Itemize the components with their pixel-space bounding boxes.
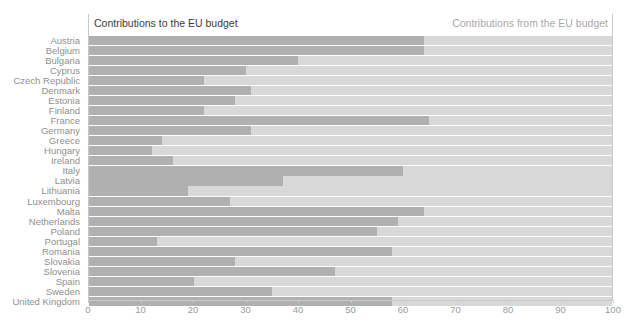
category-label: Czech Republic xyxy=(0,76,84,85)
bar-row[interactable] xyxy=(88,106,613,115)
bar-segment-to-budget xyxy=(89,56,298,65)
bar-row[interactable] xyxy=(88,116,613,125)
bar-row[interactable] xyxy=(88,86,613,95)
bar-row[interactable] xyxy=(88,176,613,185)
bar-segment-to-budget xyxy=(89,86,251,95)
bar-row[interactable] xyxy=(88,166,613,175)
x-tick-mark xyxy=(88,300,89,303)
category-label: Lithuania xyxy=(0,186,84,195)
x-axis: 0102030405060708090100 xyxy=(88,300,613,324)
category-label: Slovenia xyxy=(0,267,84,276)
category-label: Ireland xyxy=(0,156,84,165)
x-tick-label: 90 xyxy=(555,304,566,315)
x-tick-label: 100 xyxy=(605,304,621,315)
bar-row[interactable] xyxy=(88,36,613,45)
x-tick-mark xyxy=(298,300,299,303)
bar-row[interactable] xyxy=(88,247,613,256)
category-label: Denmark xyxy=(0,86,84,95)
bar-segment-to-budget xyxy=(89,237,157,246)
bar-row[interactable] xyxy=(88,76,613,85)
category-label: Bulgaria xyxy=(0,56,84,65)
x-tick-mark xyxy=(141,300,142,303)
category-label: Malta xyxy=(0,207,84,216)
bar-segment-from-budget xyxy=(89,237,612,246)
x-tick-label: 60 xyxy=(398,304,409,315)
category-label: Belgium xyxy=(0,46,84,55)
category-label: Latvia xyxy=(0,176,84,185)
bar-row[interactable] xyxy=(88,56,613,65)
bar-row[interactable] xyxy=(88,227,613,236)
bar-row[interactable] xyxy=(88,136,613,145)
chart-legend-band: Contributions to the EU budget Contribut… xyxy=(88,14,613,36)
x-tick-mark xyxy=(456,300,457,303)
bar-segment-to-budget xyxy=(89,156,173,165)
bar-segment-to-budget xyxy=(89,126,251,135)
x-tick-label: 70 xyxy=(450,304,461,315)
category-label: Italy xyxy=(0,166,84,175)
bar-segment-to-budget xyxy=(89,277,194,286)
category-label: Netherlands xyxy=(0,217,84,226)
bar-row[interactable] xyxy=(88,197,613,206)
category-label: Sweden xyxy=(0,287,84,296)
bar-segment-to-budget xyxy=(89,207,424,216)
bar-segment-to-budget xyxy=(89,166,403,175)
bar-segment-to-budget xyxy=(89,66,246,75)
category-label: Luxembourg xyxy=(0,197,84,206)
x-tick-label: 30 xyxy=(240,304,251,315)
bar-row[interactable] xyxy=(88,66,613,75)
bar-segment-to-budget xyxy=(89,227,377,236)
x-tick-label: 10 xyxy=(135,304,146,315)
bar-row[interactable] xyxy=(88,126,613,135)
bar-row[interactable] xyxy=(88,207,613,216)
category-axis-labels: AustriaBelgiumBulgariaCyprusCzech Republ… xyxy=(0,36,84,300)
x-tick-mark xyxy=(561,300,562,303)
bar-row[interactable] xyxy=(88,257,613,266)
bar-segment-to-budget xyxy=(89,46,424,55)
bar-rows xyxy=(88,36,613,300)
bar-segment-to-budget xyxy=(89,247,392,256)
bar-segment-from-budget xyxy=(89,146,612,155)
bar-segment-to-budget xyxy=(89,36,424,45)
plot-area xyxy=(88,36,613,300)
bar-segment-to-budget xyxy=(89,146,152,155)
bar-row[interactable] xyxy=(88,277,613,286)
bar-segment-to-budget xyxy=(89,186,188,195)
bar-segment-to-budget xyxy=(89,267,335,276)
category-label: Slovakia xyxy=(0,257,84,266)
x-tick-label: 50 xyxy=(345,304,356,315)
x-tick-label: 40 xyxy=(293,304,304,315)
x-tick-label: 80 xyxy=(503,304,514,315)
category-label: Finland xyxy=(0,106,84,115)
bar-segment-to-budget xyxy=(89,197,230,206)
x-tick-label: 0 xyxy=(85,304,90,315)
bar-segment-to-budget xyxy=(89,217,398,226)
bar-segment-to-budget xyxy=(89,116,429,125)
category-label: France xyxy=(0,116,84,125)
category-label: Cyprus xyxy=(0,66,84,75)
bar-row[interactable] xyxy=(88,186,613,195)
bar-row[interactable] xyxy=(88,287,613,296)
x-tick-mark xyxy=(508,300,509,303)
bar-row[interactable] xyxy=(88,267,613,276)
bar-row[interactable] xyxy=(88,156,613,165)
category-label: Germany xyxy=(0,126,84,135)
bar-row[interactable] xyxy=(88,96,613,105)
category-label: Estonia xyxy=(0,96,84,105)
bar-row[interactable] xyxy=(88,146,613,155)
bar-row[interactable] xyxy=(88,46,613,55)
bar-segment-to-budget xyxy=(89,176,283,185)
bar-segment-from-budget xyxy=(89,136,612,145)
legend-label-contributions-from: Contributions from the EU budget xyxy=(452,17,608,29)
bar-segment-to-budget xyxy=(89,287,272,296)
category-label: Portugal xyxy=(0,237,84,246)
category-label: Hungary xyxy=(0,146,84,155)
bar-segment-to-budget xyxy=(89,106,204,115)
bar-row[interactable] xyxy=(88,217,613,226)
bar-segment-to-budget xyxy=(89,136,162,145)
bar-row[interactable] xyxy=(88,237,613,246)
x-tick-mark xyxy=(246,300,247,303)
bar-segment-to-budget xyxy=(89,96,235,105)
x-tick-mark xyxy=(613,300,614,303)
x-tick-label: 20 xyxy=(188,304,199,315)
category-label: Greece xyxy=(0,136,84,145)
